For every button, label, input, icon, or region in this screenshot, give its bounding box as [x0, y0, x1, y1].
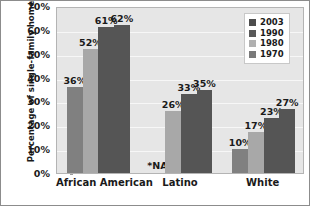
bar-1980-african-american[interactable] [98, 27, 114, 173]
bar-slot-2003-african-american[interactable]: 36% [67, 8, 83, 173]
y-axis-tick-labels: 0%10%20%30%40%50%60%70% [19, 7, 50, 174]
bar-1970-african-american[interactable] [114, 25, 130, 173]
bar-group-latino: *NA26%33%35% [150, 8, 213, 173]
bar-1970-white[interactable] [279, 109, 295, 173]
x-axis-tick-african-american: African American [56, 177, 139, 188]
y-axis-tick-50pct: 50% [19, 50, 50, 60]
y-axis-tick-70pct: 70% [19, 2, 50, 12]
x-axis-tick-latino: Latino [139, 177, 222, 188]
bar-1970-latino[interactable] [197, 90, 213, 174]
bar-value-label: 62% [110, 13, 133, 24]
legend-label: 2003 [260, 18, 284, 27]
bar-slot-2003-latino[interactable]: *NA [150, 8, 166, 173]
x-axis-tick-white: White [221, 177, 304, 188]
bar-slot-1990-african-american[interactable]: 52% [83, 8, 99, 173]
bar-slot-1970-latino[interactable]: 35% [197, 8, 213, 173]
legend-item-2003[interactable]: 2003 [249, 18, 284, 28]
bar-1980-white[interactable] [264, 118, 280, 173]
y-axis-tick-10pct: 10% [19, 145, 50, 155]
y-axis-tick-30pct: 30% [19, 97, 50, 107]
legend-swatch-icon [249, 30, 256, 37]
legend-swatch-icon [249, 19, 256, 26]
legend-swatch-icon [249, 40, 256, 47]
bar-1990-white[interactable] [248, 132, 264, 173]
y-axis-tick-40pct: 40% [19, 74, 50, 84]
y-axis-tick-mark [70, 174, 73, 175]
bar-1980-latino[interactable] [181, 94, 197, 173]
bar-slot-1980-latino[interactable]: 33% [181, 8, 197, 173]
bar-2003-african-american[interactable] [67, 87, 83, 173]
y-axis-tick-60pct: 60% [19, 26, 50, 36]
bar-value-label: 35% [193, 78, 216, 89]
legend-item-1990[interactable]: 1990 [249, 28, 284, 38]
legend-swatch-icon [249, 51, 256, 58]
y-axis-tick-20pct: 20% [19, 121, 50, 131]
bar-2003-white[interactable] [232, 149, 248, 173]
bar-slot-1970-african-american[interactable]: 62% [114, 8, 130, 173]
bar-slot-1980-african-american[interactable]: 61% [98, 8, 114, 173]
x-axis-tick-labels: African AmericanLatinoWhite [56, 177, 304, 193]
bar-1990-latino[interactable] [165, 111, 181, 173]
bar-value-label: 27% [276, 97, 299, 108]
legend-label: 1980 [260, 39, 284, 48]
legend-label: 1990 [260, 29, 284, 38]
legend-label: 1970 [260, 50, 284, 59]
chart-legend: 2003199019801970 [244, 13, 290, 64]
legend-item-1970[interactable]: 1970 [249, 49, 284, 59]
y-axis-tick-0pct: 0% [19, 169, 50, 179]
bar-chart-figure: Percentage of single-family homes 0%10%2… [0, 0, 310, 206]
legend-item-1980[interactable]: 1980 [249, 39, 284, 49]
bar-group-african-american: 36%52%61%62% [67, 8, 130, 173]
bar-1990-african-american[interactable] [83, 49, 99, 173]
